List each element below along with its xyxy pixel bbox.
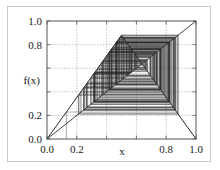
y-tick-label: 0.8 xyxy=(28,39,42,51)
x-tick-label: 0.2 xyxy=(70,143,84,155)
y-tick-label: 0.2 xyxy=(28,109,42,121)
cobweb-plot-svg: 0.00.20.81.00.00.20.81.0 x f(x) xyxy=(0,0,220,170)
x-tick-label: 1.0 xyxy=(189,143,203,155)
y-axis-title: f(x) xyxy=(24,74,41,87)
chart-figure: 0.00.20.81.00.00.20.81.0 x f(x) xyxy=(0,0,220,170)
x-tick-label: 0.0 xyxy=(40,143,54,155)
y-tick-label: 0.0 xyxy=(28,133,42,145)
cobweb-trajectory xyxy=(66,35,178,139)
plot-area-container: 0.00.20.81.00.00.20.81.0 x f(x) xyxy=(0,0,220,170)
x-tick-label: 0.8 xyxy=(159,143,173,155)
y-tick-label: 1.0 xyxy=(28,15,42,27)
x-axis-title: x xyxy=(119,145,125,157)
